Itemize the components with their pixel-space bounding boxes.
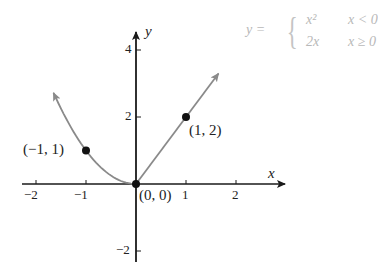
- formula-row-2-expr: 2x: [306, 34, 319, 49]
- formula-row-2: 2x x ≥ 0: [306, 34, 319, 50]
- y-tick-label: −2: [116, 243, 130, 256]
- formula-row-1: x² x < 0: [306, 12, 316, 28]
- formula-row-1-condition: x < 0: [348, 12, 378, 28]
- y-axis-label: y: [145, 24, 152, 39]
- y-tick-label: 2: [125, 109, 132, 122]
- x-tick-label: 2: [232, 188, 239, 201]
- formula-row-2-condition: x ≥ 0: [348, 34, 376, 50]
- point-marker: [82, 147, 90, 155]
- point-label: (1, 2): [189, 123, 222, 138]
- formula-row-1-expr: x²: [306, 12, 316, 27]
- x-tick-label: −2: [24, 188, 38, 201]
- x-axis-label: x: [268, 166, 275, 181]
- y-tick-label: 4: [125, 42, 132, 55]
- formula-lhs: y =: [246, 22, 265, 38]
- point-label: (−1, 1): [23, 142, 64, 157]
- x-tick-label: −1: [74, 188, 88, 201]
- point-marker: [182, 113, 190, 121]
- formula-brace: {: [287, 12, 298, 50]
- parabola-branch: [54, 93, 137, 184]
- x-tick-label: 1: [182, 188, 189, 201]
- point-label: (0, 0): [139, 188, 172, 203]
